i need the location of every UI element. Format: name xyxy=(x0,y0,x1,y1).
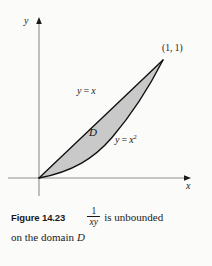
label-y-equals-x-squared: y = x2 xyxy=(115,135,137,145)
fraction-numerator: 1 xyxy=(89,206,98,216)
y-axis-label: y xyxy=(24,16,28,26)
region-label-d: D xyxy=(89,127,97,138)
label-y-equals-x-x: x xyxy=(91,85,95,96)
caption-line-2: on the domain D xyxy=(11,231,207,246)
figure-container: y x (1, 1) y = x D y = x2 Figure 14.23 1… xyxy=(0,0,212,266)
label-y-equals-x: y = x xyxy=(77,86,96,96)
caption-line-1: Figure 14.23 1 xy is unbounded xyxy=(11,204,207,230)
point-label-1-1: (1, 1) xyxy=(162,44,183,54)
caption-text-part1: is unbounded xyxy=(104,211,163,223)
y-axis-arrow-icon xyxy=(36,17,42,24)
figure-number-label: Figure 14.23 xyxy=(11,212,65,223)
plot-area: y x (1, 1) y = x D y = x2 xyxy=(0,0,212,200)
caption-text-part2: on the domain xyxy=(11,231,74,243)
caption-domain-symbol: D xyxy=(77,231,85,243)
curve-y-equals-x xyxy=(39,60,163,178)
x-axis-label: x xyxy=(186,181,190,191)
label-y-equals-x2-exponent: 2 xyxy=(134,133,137,140)
figure-caption: Figure 14.23 1 xy is unbounded on the do… xyxy=(11,204,207,246)
caption-fraction: 1 xy xyxy=(87,206,100,228)
fraction-denominator: xy xyxy=(89,217,99,228)
plot-graphic xyxy=(0,0,212,200)
